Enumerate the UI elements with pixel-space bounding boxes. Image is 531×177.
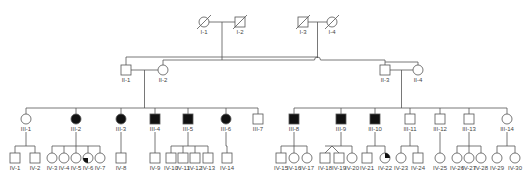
female-symbol	[95, 153, 105, 163]
individual-label: IV-22	[378, 165, 393, 171]
individual-label: III-10	[368, 126, 382, 132]
individual-label: IV-13	[201, 165, 216, 171]
individual-iii-1: III-1	[21, 114, 32, 132]
female-symbol	[71, 114, 81, 124]
male-symbol	[362, 153, 372, 163]
male-symbol	[380, 65, 390, 75]
male-symbol	[150, 114, 160, 124]
individual-label: IV-18	[318, 165, 333, 171]
individual-label: IV-6	[83, 165, 94, 171]
male-symbol	[150, 153, 160, 163]
female-symbol	[464, 153, 474, 163]
female-symbol	[492, 153, 502, 163]
individual-label: III-14	[500, 126, 514, 132]
female-symbol	[435, 153, 445, 163]
individual-iii-5: III-5	[183, 114, 194, 132]
male-symbol	[10, 153, 20, 163]
individual-iii-4: III-4	[150, 114, 161, 132]
individual-label: III-13	[462, 126, 476, 132]
individual-iv-8: IV-8	[116, 153, 127, 171]
male-symbol	[336, 114, 346, 124]
individual-label: III-2	[71, 126, 82, 132]
female-symbol	[452, 153, 462, 163]
individual-iii-8: III-8	[289, 114, 300, 132]
male-symbol	[203, 153, 213, 163]
individual-iii-14: III-14	[500, 114, 514, 132]
individual-iv-21: IV-21	[360, 153, 375, 171]
female-symbol	[413, 65, 423, 75]
female-symbol	[59, 153, 69, 163]
individual-ii-3: II-3	[380, 65, 390, 83]
individual-label: IV-1	[10, 165, 21, 171]
pedigree-nodes: I-1I-2I-3I-4II-1II-2II-3II-4III-1III-2II…	[10, 15, 523, 171]
individual-iii-13: III-13	[462, 114, 476, 132]
male-symbol	[222, 153, 232, 163]
individual-iv-6: IV-6	[83, 153, 94, 171]
female-symbol	[476, 153, 486, 163]
male-symbol	[253, 114, 263, 124]
individual-label: IV-14	[220, 165, 235, 171]
female-symbol	[396, 153, 406, 163]
individual-label: I-3	[299, 29, 307, 35]
female-symbol	[302, 153, 312, 163]
individual-label: II-4	[414, 77, 423, 83]
male-symbol	[166, 153, 176, 163]
female-symbol	[158, 65, 168, 75]
individual-label: II-1	[122, 77, 131, 83]
male-symbol	[320, 153, 330, 163]
individual-label: IV-17	[300, 165, 315, 171]
male-symbol	[276, 153, 286, 163]
individual-iv-5: IV-5	[71, 153, 82, 171]
individual-label: III-5	[183, 126, 194, 132]
individual-iv-25: IV-25	[433, 153, 448, 171]
individual-label: IV-5	[71, 165, 82, 171]
individual-iv-1: IV-1	[10, 153, 21, 171]
individual-label: III-11	[403, 126, 417, 132]
individual-i-1: I-1	[197, 15, 211, 35]
individual-label: III-12	[433, 126, 447, 132]
male-symbol	[370, 114, 380, 124]
individual-iv-28: IV-28	[474, 153, 489, 171]
individual-ii-4: II-4	[413, 65, 423, 83]
individual-label: III-1	[21, 126, 32, 132]
individual-iii-3: III-3	[116, 114, 127, 132]
individual-label: IV-28	[474, 165, 489, 171]
individual-i-3: I-3	[296, 15, 310, 35]
male-symbol	[289, 114, 299, 124]
individual-label: IV-24	[411, 165, 426, 171]
individual-label: IV-2	[30, 165, 41, 171]
individual-label: IV-8	[116, 165, 127, 171]
individual-iii-2: III-2	[71, 114, 82, 132]
individual-label: IV-20	[345, 165, 360, 171]
partial-fill-quadrant	[385, 153, 390, 158]
male-symbol	[30, 153, 40, 163]
individual-label: IV-25	[433, 165, 448, 171]
individual-iv-30: IV-30	[508, 153, 523, 171]
male-symbol	[435, 114, 445, 124]
individual-label: III-4	[150, 126, 161, 132]
individual-label: IV-4	[59, 165, 70, 171]
female-symbol	[347, 153, 357, 163]
male-symbol	[183, 114, 193, 124]
individual-label: IV-7	[95, 165, 106, 171]
pedigree-chart: I-1I-2I-3I-4II-1II-2II-3II-4III-1III-2II…	[0, 0, 531, 177]
male-symbol	[116, 153, 126, 163]
female-symbol	[221, 114, 231, 124]
individual-iv-17: IV-17	[300, 153, 315, 171]
individual-iv-13: IV-13	[201, 153, 216, 171]
individual-i-4: I-4	[325, 15, 339, 35]
female-symbol	[71, 153, 81, 163]
individual-iii-6: III-6	[221, 114, 232, 132]
individual-label: III-9	[336, 126, 347, 132]
individual-iv-29: IV-29	[490, 153, 505, 171]
individual-iv-9: IV-9	[150, 153, 161, 171]
individual-iv-24: IV-24	[411, 153, 426, 171]
individual-label: III-7	[253, 126, 264, 132]
male-symbol	[405, 114, 415, 124]
individual-label: III-3	[116, 126, 127, 132]
individual-label: III-6	[221, 126, 232, 132]
individual-label: IV-9	[150, 165, 161, 171]
individual-iii-11: III-11	[403, 114, 417, 132]
individual-label: II-3	[381, 77, 390, 83]
individual-label: II-2	[159, 77, 168, 83]
